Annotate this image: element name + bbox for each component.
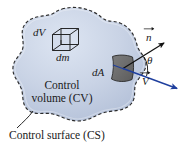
label-angle-theta: θ bbox=[147, 55, 152, 66]
label-differential-volume: dV bbox=[33, 27, 45, 38]
normal-vector-glyph: n bbox=[146, 31, 152, 43]
label-control-surface: Control surface (CS) bbox=[9, 130, 105, 142]
control-volume-figure: dV dm dA n θ V Control volume (CV) Contr… bbox=[0, 0, 183, 155]
velocity-vector-symbol: V bbox=[142, 76, 149, 87]
label-differential-area: dA bbox=[92, 67, 104, 78]
label-differential-mass: dm bbox=[56, 52, 69, 63]
label-normal-vector: n bbox=[146, 32, 152, 43]
label-control-volume-line2: volume (CV) bbox=[0, 93, 124, 105]
label-control-volume-line1: Control bbox=[0, 80, 124, 92]
control-surface-leader bbox=[17, 111, 33, 128]
label-velocity-vector: V bbox=[142, 76, 149, 87]
leader-line-path bbox=[17, 111, 33, 128]
velocity-vector-glyph: V bbox=[142, 75, 149, 87]
normal-vector-symbol: n bbox=[146, 32, 152, 43]
